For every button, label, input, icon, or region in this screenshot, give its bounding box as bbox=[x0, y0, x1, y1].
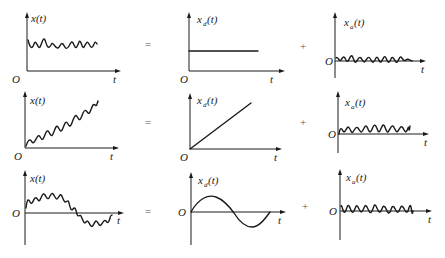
y-label-base: x bbox=[197, 174, 203, 186]
plot-total-signal: x(t) O t bbox=[12, 12, 121, 85]
y-label-base: x bbox=[196, 94, 202, 106]
y-label-arg: (t) bbox=[207, 13, 218, 26]
y-label: x(t) bbox=[30, 12, 47, 25]
plot-deterministic-component: x d (t) O t bbox=[180, 93, 282, 163]
y-label-arg: (t) bbox=[355, 96, 366, 109]
origin-label: O bbox=[12, 207, 20, 219]
time-label: t bbox=[278, 214, 282, 226]
origin-label: O bbox=[180, 73, 188, 85]
origin-label: O bbox=[325, 55, 333, 67]
origin-label: O bbox=[12, 73, 20, 85]
x-axis-arrow-icon bbox=[113, 146, 119, 150]
origin-label: O bbox=[328, 128, 336, 140]
y-label-base: x bbox=[196, 13, 202, 25]
plot-random-component: x a (t) O t bbox=[329, 169, 432, 240]
origin-label: O bbox=[14, 150, 22, 162]
y-axis-arrow-icon bbox=[187, 12, 191, 18]
plot-total-signal: x(t) O t bbox=[14, 91, 119, 162]
y-label-base: x bbox=[345, 171, 351, 183]
noisy-constant-curve bbox=[28, 39, 97, 48]
ramp-line bbox=[190, 103, 251, 149]
y-label-arg: (t) bbox=[354, 16, 365, 29]
plot-deterministic-component: x d (t) O t bbox=[180, 12, 285, 85]
equals-sign: = bbox=[145, 116, 151, 128]
time-label: t bbox=[421, 63, 425, 75]
origin-label: O bbox=[329, 205, 337, 217]
plot-random-component: x a (t) O t bbox=[328, 91, 429, 153]
y-axis-arrow-icon bbox=[188, 93, 192, 99]
plot-random-component: x a (t) O t bbox=[325, 12, 426, 78]
y-label: x(t) bbox=[29, 94, 46, 107]
y-label-base: x bbox=[343, 16, 349, 28]
equals-sign: = bbox=[145, 205, 151, 217]
row-constant-trend: x(t) O t = x d (t) O t + x a bbox=[12, 12, 426, 85]
time-label: t bbox=[113, 73, 117, 85]
time-label: t bbox=[270, 73, 274, 85]
y-axis-arrow-icon bbox=[333, 12, 337, 18]
y-axis-arrow-icon bbox=[338, 169, 342, 175]
equals-sign: = bbox=[145, 38, 151, 50]
plus-sign: + bbox=[302, 200, 308, 212]
plot-total-signal: x(t) O t bbox=[12, 170, 124, 245]
plus-sign: + bbox=[300, 40, 306, 52]
noise-curve bbox=[339, 125, 410, 134]
noise-curve bbox=[341, 205, 413, 213]
time-label: t bbox=[117, 214, 121, 226]
y-label-arg: (t) bbox=[356, 171, 367, 184]
y-axis-arrow-icon bbox=[189, 172, 193, 178]
plus-sign: + bbox=[300, 116, 306, 128]
noisy-ramp-curve bbox=[26, 101, 98, 146]
y-axis-arrow-icon bbox=[23, 170, 27, 176]
y-label-arg: (t) bbox=[207, 94, 218, 107]
origin-label: O bbox=[180, 151, 188, 163]
y-label: x(t) bbox=[29, 172, 46, 185]
y-label-arg: (t) bbox=[208, 174, 219, 187]
y-axis-arrow-icon bbox=[23, 91, 27, 97]
time-label: t bbox=[110, 150, 114, 162]
row-linear-trend: x(t) O t = x d (t) O t + x a (t) bbox=[14, 91, 429, 163]
x-axis-arrow-icon bbox=[279, 69, 285, 73]
origin-label: O bbox=[178, 206, 186, 218]
y-axis-arrow-icon bbox=[336, 91, 340, 97]
y-axis-arrow-icon bbox=[25, 12, 29, 18]
time-label: t bbox=[424, 136, 428, 148]
noisy-sine-curve bbox=[26, 193, 112, 226]
plot-deterministic-component: x d (t) O t bbox=[178, 172, 286, 245]
y-label-base: x bbox=[344, 96, 350, 108]
row-periodic-trend: x(t) O t = x d (t) O t + x a (t) bbox=[12, 169, 432, 245]
time-label: t bbox=[274, 151, 278, 163]
signal-decomposition-diagram: x(t) O t = x d (t) O t + x a bbox=[0, 0, 445, 258]
time-label: t bbox=[428, 213, 432, 225]
